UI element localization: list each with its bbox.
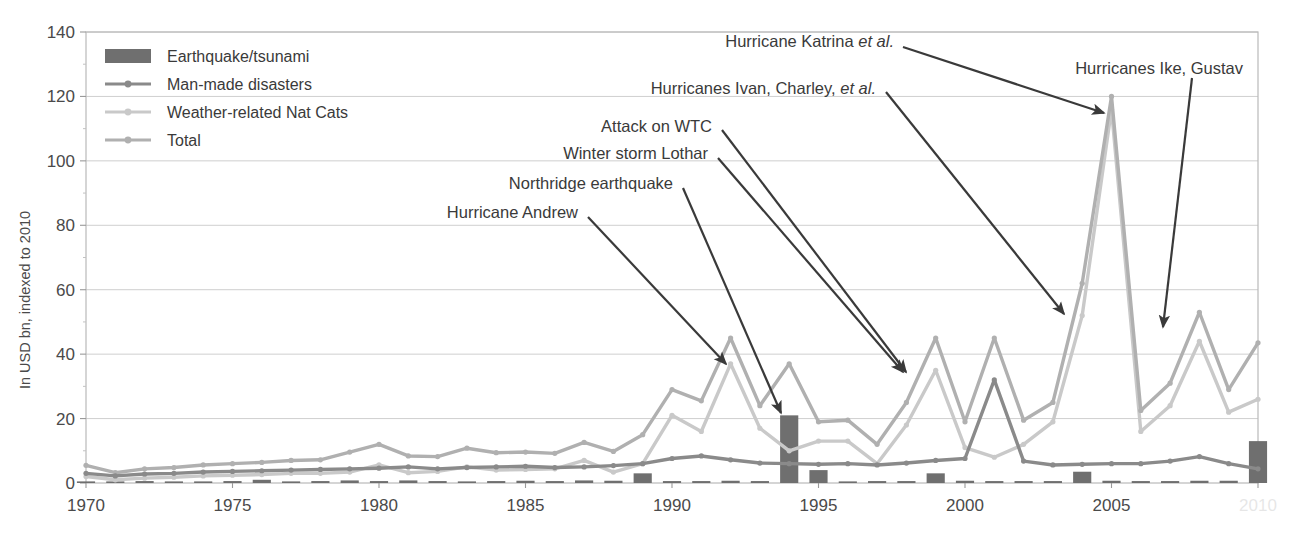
x-axis-label-2010: 2010: [1239, 496, 1277, 515]
legend-label-1: Man-made disasters: [167, 76, 312, 93]
legend-label-0: Earthquake/tsunami: [167, 48, 309, 65]
legend-item-1: Man-made disasters: [105, 76, 312, 93]
arrow-2: [1163, 78, 1192, 327]
chart-text-layer: Hurricane Katrina et al.Hurricanes Ivan,…: [0, 0, 1289, 545]
y-axis-label-80: 80: [56, 216, 75, 235]
legend-swatch: [105, 49, 151, 63]
annotation-label-1: Hurricanes Ivan, Charley, et al.: [651, 79, 876, 97]
annotation-label-3: Attack on WTC: [601, 117, 712, 135]
x-axis-labels: 197019751980198519901995200020052010: [67, 496, 1277, 515]
y-axis-label-40: 40: [56, 345, 75, 364]
x-axis-label-2000: 2000: [946, 496, 984, 515]
y-axis-label-120: 120: [47, 87, 75, 106]
arrow-1: [886, 92, 1064, 314]
legend-marker: [125, 109, 132, 116]
y-axis-label-60: 60: [56, 281, 75, 300]
y-axis-labels: 140120100806040200: [47, 23, 75, 493]
x-axis-label-1975: 1975: [214, 496, 252, 515]
x-axis-label-1995: 1995: [800, 496, 838, 515]
annotation-arrows: [588, 47, 1192, 413]
x-axis-label-1990: 1990: [653, 496, 691, 515]
arrow-0: [903, 47, 1104, 113]
annotation-label-6: Hurricane Andrew: [447, 203, 578, 221]
chart-container: Hurricane Katrina et al.Hurricanes Ivan,…: [0, 0, 1289, 545]
annotation-label-4: Winter storm Lothar: [563, 144, 708, 162]
x-axis-label-1980: 1980: [360, 496, 398, 515]
x-axis-label-2005: 2005: [1093, 496, 1131, 515]
legend-marker: [125, 81, 132, 88]
legend-item-2: Weather-related Nat Cats: [105, 104, 348, 121]
x-axis-label-1970: 1970: [67, 496, 105, 515]
x-axis-label-1985: 1985: [507, 496, 545, 515]
annotation-label-2: Hurricanes Ike, Gustav: [1075, 59, 1244, 77]
legend-item-0: Earthquake/tsunami: [105, 48, 309, 65]
legend: Earthquake/tsunamiMan-made disastersWeat…: [105, 48, 348, 149]
legend-label-2: Weather-related Nat Cats: [167, 104, 348, 121]
annotation-label-0: Hurricane Katrina et al.: [725, 32, 894, 50]
arrow-4: [718, 158, 903, 372]
legend-marker: [125, 137, 132, 144]
annotation-label-5: Northridge earthquake: [509, 174, 673, 192]
arrow-3: [722, 130, 906, 372]
y-axis-label-0: 0: [66, 474, 75, 493]
y-axis-label-20: 20: [56, 410, 75, 429]
arrow-5: [683, 188, 781, 413]
legend-item-3: Total: [105, 132, 201, 149]
y-axis-label-140: 140: [47, 23, 75, 42]
annotation-labels: Hurricane Katrina et al.Hurricanes Ivan,…: [447, 32, 1244, 221]
y-axis-title: In USD bn, indexed to 2010: [17, 211, 33, 389]
y-axis-label-100: 100: [47, 152, 75, 171]
legend-label-3: Total: [167, 132, 201, 149]
